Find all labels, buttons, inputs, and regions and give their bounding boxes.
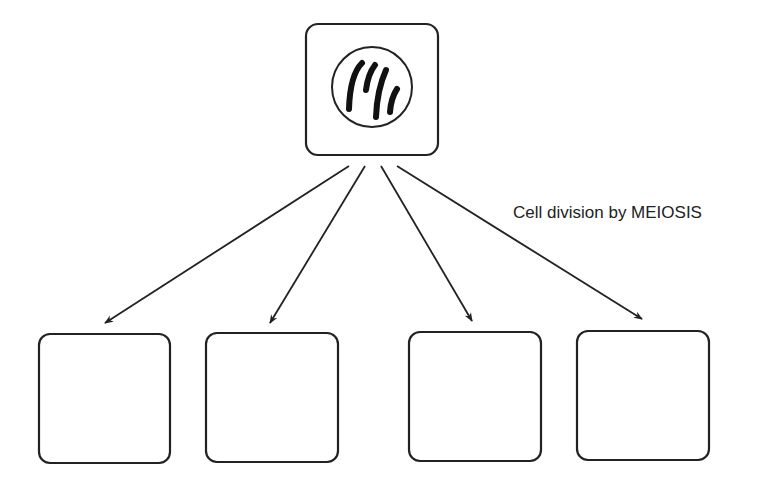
nucleus [332,47,412,127]
arrows [105,166,642,323]
meiosis-diagram [0,0,780,497]
daughter-cell-2 [206,333,338,462]
arrow-3 [381,166,472,321]
division-annotation: Cell division by MEIOSIS [513,203,702,223]
daughter-cell-3 [409,332,541,461]
arrow-2 [270,166,365,323]
arrow-1 [105,166,349,323]
daughter-cell-1 [39,334,170,463]
arrow-4 [397,166,642,319]
daughter-cell-4 [577,331,709,460]
parent-cell [306,24,438,155]
